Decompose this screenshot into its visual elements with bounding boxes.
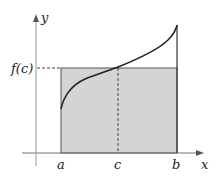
y-axis-arrow-icon	[33, 14, 39, 22]
fc-label: f(c)	[10, 61, 33, 76]
y-axis-label: y	[40, 10, 49, 25]
tick-label-a: a	[57, 157, 65, 172]
mvt-diagram: y x f(c) a c b	[0, 0, 221, 176]
x-axis-label: x	[201, 157, 209, 172]
mean-value-rectangle	[61, 68, 177, 153]
x-axis-arrow-icon	[196, 150, 204, 156]
tick-label-b: b	[172, 157, 180, 172]
tick-label-c: c	[114, 157, 122, 172]
